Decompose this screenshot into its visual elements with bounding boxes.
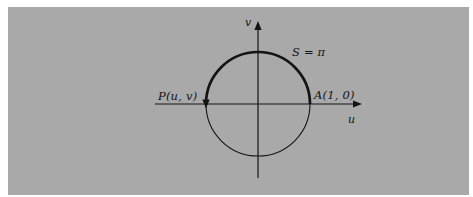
point-a-label: A(1, 0) — [314, 90, 355, 102]
v-axis-arrowhead-icon — [254, 21, 261, 30]
point-p-label: P(u, v) — [158, 91, 197, 103]
u-axis-label: u — [348, 114, 355, 125]
figure-root: v u S = π P(u, v) A(1, 0) — [0, 0, 473, 197]
arc-length-label: S = π — [292, 47, 325, 59]
v-axis-label: v — [245, 17, 251, 28]
unit-circle-plot — [0, 0, 473, 197]
